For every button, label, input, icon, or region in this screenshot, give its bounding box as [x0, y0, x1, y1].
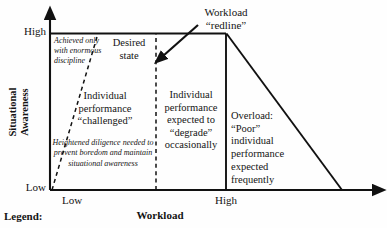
x-axis-title: Workload — [105, 209, 215, 221]
y-axis-tick-high: High — [8, 25, 46, 37]
y-axis-title: Situational Awareness — [7, 72, 31, 152]
annotation-desired-state: Desired state — [103, 37, 155, 62]
situational-awareness-workload-diagram: Situational Awareness Workload High Low … — [0, 0, 387, 228]
annotation-performance-challenged: Individual performance “challenged” — [58, 90, 152, 128]
annotation-overload: Overload: “Poor” individual performance … — [231, 110, 303, 186]
y-axis-tick-low: Low — [8, 181, 46, 193]
x-axis-tick-high: High — [215, 194, 237, 206]
x-axis-tick-low: Low — [62, 194, 82, 206]
annotation-performance-degrade: Individual performance expected to “degr… — [159, 89, 223, 152]
annotation-heightened-diligence: Heightened diligence needed to prevent b… — [52, 138, 154, 169]
legend-label: Legend: — [4, 210, 43, 222]
annotation-enormous-discipline: Achieved only with enormous discipline — [54, 36, 102, 66]
annotation-workload-redline: Workload “redline” — [178, 6, 274, 32]
